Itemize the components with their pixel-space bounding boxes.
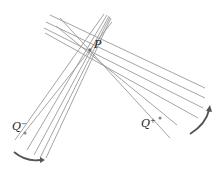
line-3	[44, 28, 203, 108]
label-q-plus: Q+	[141, 117, 156, 130]
pencil-of-lines	[15, 14, 205, 158]
label-p: P	[93, 38, 102, 51]
line-9	[34, 16, 109, 155]
line-7	[15, 14, 104, 140]
label-q-plus-base: Q	[141, 117, 150, 130]
diagram-canvas: P Q− Q+	[0, 0, 223, 184]
point-q-plus	[158, 116, 161, 119]
line-2	[46, 22, 205, 98]
label-q-plus-sup: +	[150, 117, 156, 125]
point-p	[89, 49, 92, 52]
line-1	[50, 15, 205, 88]
label-q-minus: Q−	[12, 120, 27, 133]
point-q-minus	[23, 131, 26, 134]
rotation-arrow-right	[190, 105, 212, 134]
rotation-arrow-lower-left	[14, 152, 45, 163]
label-q-minus-sup: −	[21, 120, 27, 128]
label-q-minus-base: Q	[12, 120, 21, 133]
line-4	[45, 33, 198, 118]
